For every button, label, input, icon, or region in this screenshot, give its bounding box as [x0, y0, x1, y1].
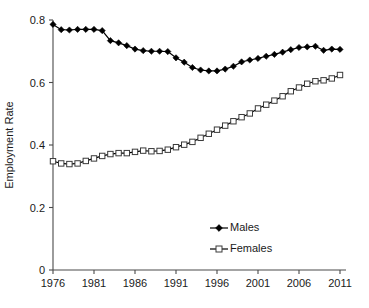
x-tick-label: 1986	[123, 277, 147, 289]
data-point	[255, 106, 260, 111]
series-females	[50, 72, 342, 166]
series-layer	[50, 21, 343, 166]
data-point	[230, 63, 236, 69]
data-point	[288, 47, 294, 53]
data-point	[296, 85, 301, 90]
data-point	[50, 159, 55, 164]
x-tick-label: 1981	[82, 277, 106, 289]
data-point	[83, 26, 89, 32]
data-point	[214, 68, 220, 74]
data-point	[239, 59, 245, 65]
data-point	[296, 44, 302, 50]
data-point	[189, 64, 195, 70]
employment-rate-chart: 00.20.40.60.8 19761981198619911996200120…	[0, 0, 369, 308]
data-point	[305, 81, 310, 86]
data-point	[190, 139, 195, 144]
data-point	[321, 78, 326, 83]
data-point	[263, 53, 269, 59]
y-tick-label: 0.6	[30, 77, 45, 89]
legend-label: Females	[230, 242, 273, 254]
series-males	[50, 21, 343, 74]
data-point	[181, 59, 187, 65]
data-point	[321, 47, 327, 53]
data-point	[100, 153, 105, 158]
data-point	[214, 127, 219, 132]
data-point	[312, 43, 318, 49]
legend-marker	[216, 225, 223, 232]
x-tick-label: 2011	[328, 277, 352, 289]
data-point	[337, 46, 343, 52]
data-point	[271, 51, 277, 57]
data-point	[59, 161, 64, 166]
data-point	[222, 66, 228, 72]
data-point	[149, 149, 154, 154]
y-tick-label: 0.8	[30, 14, 45, 26]
data-point	[157, 148, 162, 153]
data-point	[329, 76, 334, 81]
data-point	[67, 161, 72, 166]
data-point	[91, 156, 96, 161]
legend-label: Males	[230, 221, 260, 233]
y-tick-label: 0.2	[30, 202, 45, 214]
x-tick-label: 2001	[246, 277, 270, 289]
data-point	[272, 98, 277, 103]
data-point	[148, 48, 154, 54]
data-point	[83, 158, 88, 163]
data-point	[288, 89, 293, 94]
data-point	[165, 147, 170, 152]
x-tick-label: 1996	[205, 277, 229, 289]
chart-legend: MalesFemales	[210, 221, 273, 254]
data-point	[91, 26, 97, 32]
y-tick-label: 0	[39, 264, 45, 276]
data-point	[66, 27, 72, 33]
x-tick-label: 1991	[164, 277, 188, 289]
data-point	[280, 94, 285, 99]
data-point	[50, 21, 56, 27]
data-point	[182, 142, 187, 147]
data-point	[173, 144, 178, 149]
data-point	[116, 150, 121, 155]
data-point	[231, 119, 236, 124]
data-point	[75, 26, 81, 32]
data-point	[157, 48, 163, 54]
data-point	[198, 135, 203, 140]
chart-canvas: 00.20.40.60.8 19761981198619911996200120…	[0, 0, 369, 308]
data-point	[198, 67, 204, 73]
data-point	[313, 79, 318, 84]
y-axis-title: Employment Rate	[3, 101, 15, 188]
data-point	[255, 55, 261, 61]
data-point	[124, 43, 130, 49]
data-point	[247, 111, 252, 116]
data-point	[132, 46, 138, 52]
data-point	[141, 148, 146, 153]
data-point	[247, 57, 253, 63]
data-point	[239, 114, 244, 119]
legend-marker	[216, 246, 222, 252]
data-point	[280, 49, 286, 55]
x-axis-ticks: 19761981198619911996200120062011	[41, 270, 352, 289]
data-point	[337, 72, 342, 77]
data-point	[58, 27, 64, 33]
data-point	[206, 68, 212, 74]
y-tick-label: 0.4	[30, 139, 45, 151]
data-point	[264, 102, 269, 107]
data-point	[132, 149, 137, 154]
legend-item-females: Females	[210, 242, 273, 254]
data-point	[124, 150, 129, 155]
data-point	[140, 48, 146, 54]
x-tick-label: 2006	[287, 277, 311, 289]
y-axis-ticks: 00.20.40.60.8	[30, 14, 53, 276]
legend-item-males: Males	[210, 221, 260, 233]
data-point	[75, 161, 80, 166]
data-point	[304, 44, 310, 50]
data-point	[206, 131, 211, 136]
data-point	[116, 40, 122, 46]
data-point	[108, 151, 113, 156]
data-point	[329, 46, 335, 52]
data-point	[223, 123, 228, 128]
x-tick-label: 1976	[41, 277, 65, 289]
